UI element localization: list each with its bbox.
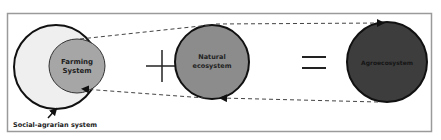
plus-operator-icon (146, 50, 177, 82)
farming-system-label-line2: System (62, 67, 91, 75)
agroecosystem-label: Agroecosystem (361, 59, 413, 67)
social-agrarian-pointer-arrow-icon (48, 109, 56, 118)
farming-system-label-line1: Farming (61, 58, 93, 66)
social-agrarian-label: Social-agrarian system (13, 121, 97, 129)
farming-system-ellipse (49, 39, 105, 93)
connector-agro-to-natural-bottom (221, 98, 378, 102)
natural-ecosystem-label-line1: Natural (198, 53, 225, 61)
diagram-canvas: Farming System Natural ecosystem Agroeco… (0, 0, 441, 140)
connector-natural-to-agro-top (216, 23, 383, 24)
equals-operator-icon (302, 57, 326, 68)
natural-ecosystem-label-line2: ecosystem (193, 62, 232, 70)
